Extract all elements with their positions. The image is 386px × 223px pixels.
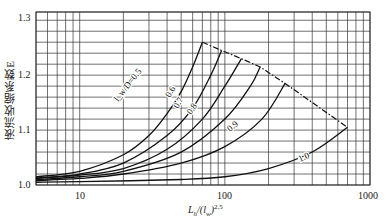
x-tick-1000: 1000 [358, 190, 378, 201]
x-tick-100: 100 [217, 190, 232, 201]
x-axis-label: Lh/(lw)2.5 [188, 203, 223, 218]
curve-label: 0.9 [225, 118, 240, 133]
x-tick-10: 10 [75, 190, 85, 201]
envelope-line [202, 42, 347, 127]
y-tick-1-0: 1.0 [18, 179, 31, 190]
chart-svg: l_w/D=0.50.60.70.80.91.0 [0, 0, 386, 223]
curve-labels: l_w/D=0.50.60.70.80.91.0 [112, 66, 312, 164]
y-axis-label: 液流收缩系数E [2, 60, 16, 140]
curve-label: 0.8 [184, 101, 199, 116]
grid [36, 12, 370, 185]
y-tick-1-3: 1.3 [18, 12, 31, 23]
y-tick-1-1: 1.1 [18, 124, 31, 135]
curve-label: l_w/D=0.5 [112, 66, 144, 103]
y-tick-1-2: 1.2 [18, 69, 31, 80]
